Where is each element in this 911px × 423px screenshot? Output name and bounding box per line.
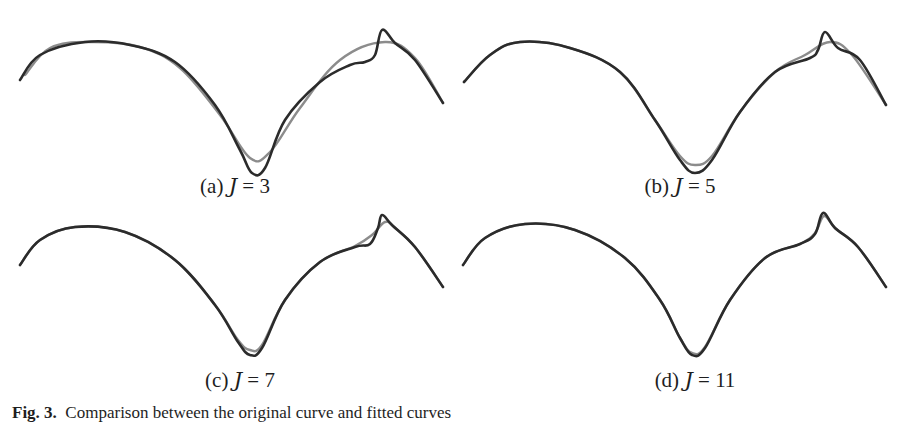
panel-b-plot (464, 32, 886, 173)
panel-b-var: J (674, 174, 682, 198)
panel-c-eq: = 7 (242, 368, 275, 392)
panel-a-plot (20, 30, 443, 176)
panel-a-fitted-curve (25, 42, 443, 161)
panel-d-label: (d) J = 11 (655, 368, 736, 393)
panel-d-plot (463, 213, 886, 356)
panel-c-label: (c) J = 7 (205, 368, 275, 393)
panel-a-var: J (229, 174, 237, 198)
panel-b-original-curve (464, 32, 886, 173)
panel-a-label: (a) J = 3 (200, 174, 270, 199)
panel-b-eq: = 5 (683, 174, 716, 198)
panel-a-prefix: (a) (200, 174, 223, 198)
panel-d-eq: = 11 (693, 368, 736, 392)
panel-a-original-curve (20, 30, 443, 176)
panel-c-prefix: (c) (205, 368, 228, 392)
panel-b-fitted-curve (464, 42, 886, 165)
panel-c-original-curve (20, 215, 443, 356)
caption-fig-label: Fig. 3. (12, 403, 57, 422)
panel-b-label: (b) J = 5 (644, 174, 715, 199)
panel-d-fitted-curve (463, 216, 886, 354)
panel-d-original-curve (463, 213, 886, 356)
caption-text: Comparison between the original curve an… (65, 403, 451, 422)
panel-c-var: J (234, 368, 242, 392)
panel-b-prefix: (b) (644, 174, 669, 198)
figure-caption: Fig. 3. Comparison between the original … (12, 403, 451, 423)
panel-a-eq: = 3 (237, 174, 270, 198)
panel-d-var: J (684, 368, 692, 392)
panel-c-plot (20, 215, 443, 356)
panel-d-prefix: (d) (655, 368, 680, 392)
